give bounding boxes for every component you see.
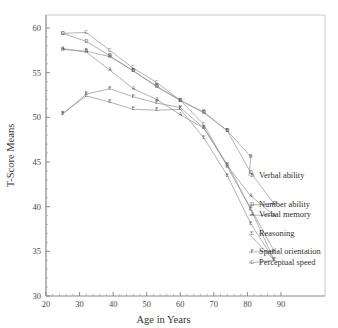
y-tick-label: 60 bbox=[33, 23, 42, 33]
data-point-marker: F bbox=[155, 99, 158, 105]
legend-marker-glyph: D bbox=[250, 201, 254, 207]
legend-item-spatial-orientation: FSpatial orientation bbox=[250, 247, 321, 256]
series-line bbox=[63, 49, 275, 216]
legend-marker-glyph: B bbox=[250, 172, 254, 178]
legend-item-label: Verbal ability bbox=[259, 171, 305, 180]
chart-container: 203040506070809030354045505560Age in Yea… bbox=[0, 0, 338, 328]
y-tick-label: 30 bbox=[33, 291, 42, 301]
legend-marker-glyph: F bbox=[250, 248, 253, 254]
series-line bbox=[63, 89, 275, 252]
x-tick-label: 90 bbox=[277, 299, 286, 309]
legend-marker-glyph: E bbox=[250, 230, 254, 236]
line-chart: 203040506070809030354045505560Age in Yea… bbox=[0, 0, 338, 328]
data-point-marker: E bbox=[108, 98, 111, 104]
y-tick-label: 45 bbox=[33, 157, 42, 167]
x-axis-title: Age in Years bbox=[137, 314, 191, 325]
y-tick-label: 55 bbox=[33, 68, 42, 78]
x-tick-label: 60 bbox=[176, 299, 185, 309]
legend-item-perceptual-speed: CPerceptual speed bbox=[250, 258, 316, 267]
x-tick-label: 80 bbox=[243, 299, 252, 309]
data-point-marker: E bbox=[202, 134, 205, 140]
data-point-marker: D bbox=[225, 127, 229, 133]
data-point-marker: D bbox=[202, 109, 206, 115]
series-number-ability: DDDDDDDDDD bbox=[61, 30, 277, 207]
data-point-marker: A bbox=[131, 85, 135, 91]
data-point-marker: B bbox=[249, 153, 253, 159]
legend-item-verbal-ability: BVerbal ability bbox=[250, 171, 305, 180]
series-line bbox=[63, 33, 275, 204]
data-point-marker: E bbox=[249, 220, 252, 226]
data-point-marker: D bbox=[108, 52, 112, 58]
y-tick-label: 35 bbox=[33, 246, 42, 256]
data-point-marker: C bbox=[179, 97, 183, 103]
data-point-marker: C bbox=[61, 30, 65, 36]
data-point-marker: F bbox=[108, 85, 111, 91]
legend-item-label: Verbal memory bbox=[259, 210, 312, 219]
data-point-marker: C bbox=[226, 163, 230, 169]
legend-marker-glyph: A bbox=[250, 211, 254, 217]
data-point-marker: C bbox=[132, 64, 136, 70]
x-tick-label: 20 bbox=[42, 299, 51, 309]
data-point-marker: E bbox=[226, 172, 229, 178]
data-point-marker: F bbox=[132, 93, 135, 99]
data-point-marker: E bbox=[155, 106, 158, 112]
data-point-marker: C bbox=[155, 79, 159, 85]
series-spatial-orientation: FFFFFFFFFF bbox=[61, 85, 276, 254]
legend-marker-glyph: C bbox=[250, 259, 254, 265]
data-point-marker: E bbox=[132, 105, 135, 111]
data-point-marker: A bbox=[61, 45, 65, 51]
data-point-marker: C bbox=[85, 29, 89, 35]
x-tick-label: 30 bbox=[75, 299, 84, 309]
series-reasoning: EEEEEEEEEE bbox=[61, 92, 276, 262]
legend-item-label: Perceptual speed bbox=[259, 258, 316, 267]
y-axis-title: T-Score Means bbox=[5, 124, 16, 187]
data-point-marker: A bbox=[108, 66, 112, 72]
series-line bbox=[63, 96, 275, 260]
data-point-marker: A bbox=[178, 111, 182, 117]
y-tick-label: 40 bbox=[33, 202, 42, 212]
x-tick-label: 70 bbox=[210, 299, 219, 309]
data-point-marker: A bbox=[249, 192, 253, 198]
x-tick-label: 50 bbox=[142, 299, 151, 309]
data-point-marker: D bbox=[84, 38, 88, 44]
legend-item-label: Spatial orientation bbox=[259, 247, 321, 256]
series-perceptual-speed: CCCCCCCCCC bbox=[61, 29, 277, 263]
legend-item-label: Reasoning bbox=[259, 229, 295, 238]
series-group: BBBBBBBBBDDDDDDDDDDAAAAAAAAAAEEEEEEEEEEF… bbox=[61, 29, 277, 263]
series-line bbox=[63, 32, 275, 260]
series-verbal-memory: AAAAAAAAAA bbox=[61, 45, 277, 218]
data-point-marker: F bbox=[61, 110, 64, 116]
data-point-marker: C bbox=[108, 47, 112, 53]
data-point-marker: A bbox=[84, 48, 88, 54]
data-point-marker: F bbox=[179, 104, 182, 110]
data-point-marker: F bbox=[85, 90, 88, 96]
x-tick-label: 40 bbox=[109, 299, 118, 309]
data-point-marker: C bbox=[202, 121, 206, 127]
legend-item-number-ability: DNumber ability bbox=[250, 200, 311, 209]
legend-item-verbal-memory: AVerbal memory bbox=[250, 210, 312, 219]
legend-item-label: Number ability bbox=[259, 200, 311, 209]
y-tick-label: 50 bbox=[33, 112, 42, 122]
